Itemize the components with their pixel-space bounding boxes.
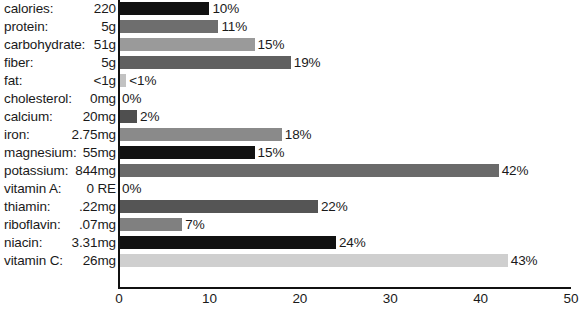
nutrient-bar <box>119 218 182 231</box>
bar-track: 42% <box>119 162 587 180</box>
nutrient-amount: 51g <box>0 36 116 54</box>
nutrient-amount: 26mg <box>0 252 116 270</box>
nutrient-bar <box>119 200 318 213</box>
bar-track: <1% <box>119 72 587 90</box>
nutrient-amount: 5g <box>0 18 116 36</box>
nutrient-row: protein:5g11% <box>0 18 587 36</box>
nutrient-row: calories:22010% <box>0 0 587 18</box>
nutrient-row: carbohydrate:51g15% <box>0 36 587 54</box>
bar-track: 15% <box>119 36 587 54</box>
nutrient-bar <box>119 164 499 177</box>
nutrient-bar <box>119 56 291 69</box>
nutrient-bar <box>119 20 218 33</box>
nutrient-bar <box>119 254 508 267</box>
nutrient-percent-label: 2% <box>137 108 159 126</box>
nutrient-row: thiamin:.22mg22% <box>0 198 587 216</box>
nutrient-amount: 220 <box>0 0 116 18</box>
bar-track: 43% <box>119 252 587 270</box>
x-tick-label: 10 <box>202 289 217 309</box>
bar-track: 15% <box>119 144 587 162</box>
nutrient-row: niacin:3.31mg24% <box>0 234 587 252</box>
nutrient-percent-label: 0% <box>119 90 141 108</box>
nutrient-row: iron:2.75mg18% <box>0 126 587 144</box>
bar-track: 18% <box>119 126 587 144</box>
bar-track: 10% <box>119 0 587 18</box>
bar-track: 11% <box>119 18 587 36</box>
nutrient-amount: 3.31mg <box>0 234 116 252</box>
nutrient-percent-label: 19% <box>291 54 321 72</box>
nutrient-amount: <1g <box>0 72 116 90</box>
y-axis-line <box>118 0 120 288</box>
nutrient-percent-label: 7% <box>182 216 204 234</box>
nutrition-bar-chart: calories:22010%protein:5g11%carbohydrate… <box>0 0 587 309</box>
bar-track: 24% <box>119 234 587 252</box>
nutrient-row: calcium:20mg2% <box>0 108 587 126</box>
nutrient-row: vitamin A:0 RE0% <box>0 180 587 198</box>
nutrient-amount: 2.75mg <box>0 126 116 144</box>
nutrient-percent-label: 15% <box>255 144 285 162</box>
nutrient-row: cholesterol:0mg0% <box>0 90 587 108</box>
nutrient-bar <box>119 236 336 249</box>
nutrient-percent-label: 0% <box>119 180 141 198</box>
nutrient-percent-label: 10% <box>209 0 239 18</box>
nutrient-bar <box>119 146 255 159</box>
bar-track: 22% <box>119 198 587 216</box>
nutrient-bar <box>119 38 255 51</box>
nutrient-percent-label: 22% <box>318 198 348 216</box>
nutrient-amount: 55mg <box>0 144 116 162</box>
nutrient-row: fiber:5g19% <box>0 54 587 72</box>
nutrient-amount: 5g <box>0 54 116 72</box>
x-axis-tick-labels: 01020304050 <box>0 289 587 309</box>
nutrient-bar <box>119 128 282 141</box>
nutrient-amount: 0mg <box>0 90 116 108</box>
nutrient-percent-label: 18% <box>282 126 312 144</box>
nutrient-amount: .22mg <box>0 198 116 216</box>
nutrient-percent-label: 43% <box>508 252 538 270</box>
x-tick-label: 40 <box>473 289 488 309</box>
chart-rows: calories:22010%protein:5g11%carbohydrate… <box>0 0 587 288</box>
x-tick-label: 30 <box>383 289 398 309</box>
nutrient-row: magnesium:55mg15% <box>0 144 587 162</box>
bar-track: 0% <box>119 90 587 108</box>
nutrient-bar <box>119 2 209 15</box>
bar-track: 2% <box>119 108 587 126</box>
nutrient-percent-label: 24% <box>336 234 366 252</box>
nutrient-amount: 844mg <box>0 162 116 180</box>
bar-track: 7% <box>119 216 587 234</box>
nutrient-amount: 0 RE <box>0 180 116 198</box>
nutrient-percent-label: 42% <box>499 162 529 180</box>
x-tick-label: 20 <box>292 289 307 309</box>
nutrient-row: potassium:844mg42% <box>0 162 587 180</box>
nutrient-amount: 20mg <box>0 108 116 126</box>
nutrient-bar <box>119 74 126 87</box>
bar-track: 0% <box>119 180 587 198</box>
nutrient-percent-label: 11% <box>218 18 247 36</box>
x-tick-label: 0 <box>115 289 122 309</box>
x-tick-label: 50 <box>564 289 579 309</box>
nutrient-row: riboflavin:.07mg7% <box>0 216 587 234</box>
nutrient-row: vitamin C:26mg43% <box>0 252 587 270</box>
nutrient-amount: .07mg <box>0 216 116 234</box>
bar-track: 19% <box>119 54 587 72</box>
nutrient-percent-label: 15% <box>255 36 285 54</box>
nutrient-percent-label: <1% <box>126 72 156 90</box>
nutrient-row: fat:<1g<1% <box>0 72 587 90</box>
nutrient-bar <box>119 110 137 123</box>
